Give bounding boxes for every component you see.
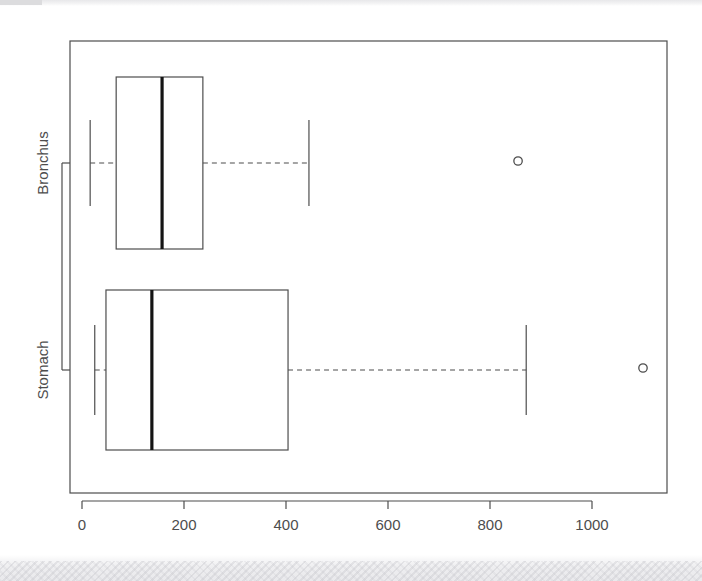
x-tick-label: 400 [273, 516, 298, 533]
scan-edge-bottom-texture [0, 561, 702, 581]
boxplot-canvas: 02004006008001000BronchusStomach [0, 0, 702, 581]
box-iqr [116, 77, 203, 249]
box-iqr [106, 290, 288, 450]
boxplot-figure: 02004006008001000BronchusStomach [0, 0, 702, 581]
y-tick-label-bronchus: Bronchus [34, 131, 51, 194]
plot-frame [70, 41, 667, 493]
x-tick-label: 600 [375, 516, 400, 533]
x-tick-label: 0 [78, 516, 86, 533]
x-tick-label: 1000 [575, 516, 608, 533]
x-tick-label: 800 [477, 516, 502, 533]
outlier-point [514, 157, 522, 165]
outlier-point [639, 364, 647, 372]
x-tick-label: 200 [171, 516, 196, 533]
y-tick-label-stomach: Stomach [34, 340, 51, 399]
